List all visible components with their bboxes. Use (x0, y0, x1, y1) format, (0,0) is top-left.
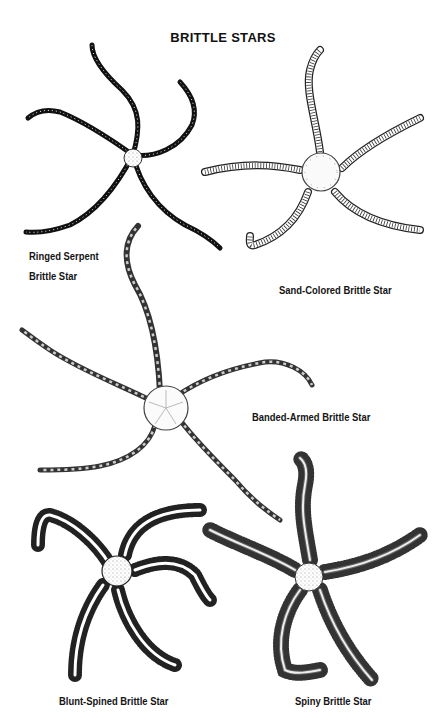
species-label-spiny: Spiny Brittle Star (295, 695, 372, 707)
ringed-serpent-brittle-star-illustration (26, 45, 220, 248)
blunt-spined-brittle-star-illustration (38, 510, 210, 675)
spiny-brittle-star-illustration (210, 458, 420, 680)
species-label-ringed-serpent-line2: Brittle Star (29, 270, 77, 282)
illustrations (0, 0, 446, 724)
species-label-banded-armed: Banded-Armed Brittle Star (252, 411, 370, 423)
species-label-ringed-serpent-line1: Ringed Serpent (29, 250, 99, 262)
species-label-sand-colored: Sand-Colored Brittle Star (279, 284, 392, 296)
sand-colored-brittle-star-illustration (205, 50, 420, 245)
species-label-blunt-spined: Blunt-Spined Brittle Star (59, 695, 168, 707)
page-title: BRITTLE STARS (0, 30, 446, 45)
